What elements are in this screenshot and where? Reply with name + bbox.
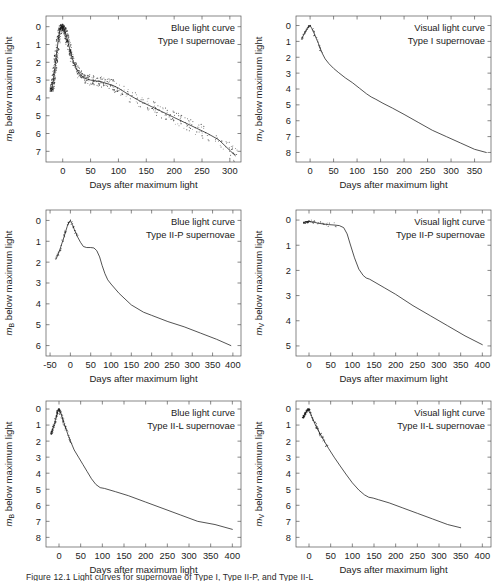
svg-text:150: 150 <box>139 166 155 176</box>
svg-text:3: 3 <box>286 291 291 301</box>
svg-text:200: 200 <box>388 551 404 561</box>
svg-text:350: 350 <box>453 360 469 370</box>
svg-text:5: 5 <box>36 320 41 330</box>
svg-text:1: 1 <box>286 420 291 430</box>
svg-text:2: 2 <box>286 437 291 447</box>
panel-visual-type-ii-l: 050100150200250300350400012345678Visual … <box>250 387 499 581</box>
svg-text:Blue light curve: Blue light curve <box>171 22 235 33</box>
svg-text:2: 2 <box>286 266 291 276</box>
svg-text:300: 300 <box>431 551 447 561</box>
svg-text:0: 0 <box>68 360 73 370</box>
svg-text:350: 350 <box>467 166 483 176</box>
svg-text:4: 4 <box>286 84 291 94</box>
svg-text:300: 300 <box>431 360 447 370</box>
svg-text:0: 0 <box>36 22 41 32</box>
plot-visual-type-i: 050100150200250300350012345678Visual lig… <box>250 2 499 196</box>
svg-text:Days after maximum light: Days after maximum light <box>89 373 198 384</box>
svg-text:7: 7 <box>286 132 291 142</box>
svg-text:Days after maximum light: Days after maximum light <box>89 179 198 190</box>
svg-text:Type I supernovae: Type I supernovae <box>158 35 235 46</box>
plot-visual-type-ii-p: 050100150200250300350400012345Visual lig… <box>250 196 499 390</box>
panel-blue-type-ii-l: 050100150200250300350400012345678Blue li… <box>0 387 249 581</box>
panel-visual-type-ii-p: 050100150200250300350400012345Visual lig… <box>250 196 499 390</box>
svg-text:3: 3 <box>36 75 41 85</box>
svg-text:3: 3 <box>36 278 41 288</box>
svg-text:5: 5 <box>286 341 291 351</box>
svg-text:8: 8 <box>286 533 291 543</box>
svg-text:250: 250 <box>420 166 436 176</box>
svg-text:Blue light curve: Blue light curve <box>171 407 235 418</box>
svg-text:350: 350 <box>203 551 219 561</box>
svg-text:Visual light curve: Visual light curve <box>414 22 485 33</box>
svg-text:300: 300 <box>443 166 459 176</box>
svg-text:1: 1 <box>286 37 291 47</box>
plot-blue-type-i: 05010015020025030001234567Blue light cur… <box>0 2 249 196</box>
svg-text:mV below maximum light: mV below maximum light <box>253 230 265 335</box>
svg-text:100: 100 <box>345 360 361 370</box>
panel-visual-type-i: 050100150200250300350012345678Visual lig… <box>250 2 499 196</box>
svg-text:1: 1 <box>36 237 41 247</box>
supernova-light-curve-figure: 05010015020025030001234567Blue light cur… <box>0 0 499 581</box>
svg-text:6: 6 <box>36 341 41 351</box>
svg-text:mB below maximum light: mB below maximum light <box>3 230 15 335</box>
svg-text:Type II-L supernovae: Type II-L supernovae <box>147 420 235 431</box>
svg-text:4: 4 <box>36 299 41 309</box>
svg-text:250: 250 <box>410 360 426 370</box>
svg-text:0: 0 <box>56 551 61 561</box>
svg-text:1: 1 <box>286 241 291 251</box>
svg-text:50: 50 <box>328 166 338 176</box>
svg-text:4: 4 <box>286 316 291 326</box>
svg-text:150: 150 <box>124 360 140 370</box>
figure-caption-text: Figure 12.1 Light curves for supernovae … <box>26 573 313 581</box>
svg-text:mB below maximum light: mB below maximum light <box>3 421 15 526</box>
figure-caption: Figure 12.1 Light curves for supernovae … <box>0 573 499 581</box>
svg-text:350: 350 <box>453 551 469 561</box>
svg-text:0: 0 <box>36 216 41 226</box>
svg-text:mB below maximum light: mB below maximum light <box>3 36 15 141</box>
svg-text:200: 200 <box>138 551 154 561</box>
svg-text:100: 100 <box>111 166 127 176</box>
svg-text:3: 3 <box>286 453 291 463</box>
svg-text:250: 250 <box>160 551 176 561</box>
plot-blue-type-ii-p: -500501001502002503003504000123456Blue l… <box>0 196 249 390</box>
svg-text:Visual light curve: Visual light curve <box>414 407 485 418</box>
svg-text:4: 4 <box>36 469 41 479</box>
svg-text:300: 300 <box>184 360 200 370</box>
svg-text:100: 100 <box>95 551 111 561</box>
svg-text:150: 150 <box>366 551 382 561</box>
svg-text:400: 400 <box>475 551 491 561</box>
svg-text:0: 0 <box>60 166 65 176</box>
svg-text:1: 1 <box>36 420 41 430</box>
svg-text:5: 5 <box>286 100 291 110</box>
svg-text:250: 250 <box>410 551 426 561</box>
svg-text:2: 2 <box>36 58 41 68</box>
svg-text:4: 4 <box>286 469 291 479</box>
svg-text:-50: -50 <box>43 360 56 370</box>
svg-text:4: 4 <box>36 93 41 103</box>
svg-text:400: 400 <box>475 360 491 370</box>
svg-text:100: 100 <box>345 551 361 561</box>
svg-text:0: 0 <box>286 215 291 225</box>
svg-text:2: 2 <box>36 258 41 268</box>
svg-text:200: 200 <box>144 360 160 370</box>
svg-text:50: 50 <box>86 360 96 370</box>
svg-text:0: 0 <box>286 404 291 414</box>
svg-text:3: 3 <box>286 69 291 79</box>
svg-text:250: 250 <box>164 360 180 370</box>
plot-blue-type-ii-l: 050100150200250300350400012345678Blue li… <box>0 387 249 581</box>
svg-text:350: 350 <box>205 360 221 370</box>
svg-text:100: 100 <box>349 166 365 176</box>
svg-text:Type II-L supernovae: Type II-L supernovae <box>397 420 485 431</box>
svg-text:150: 150 <box>373 166 389 176</box>
svg-text:5: 5 <box>286 485 291 495</box>
svg-text:50: 50 <box>325 360 335 370</box>
svg-text:7: 7 <box>36 517 41 527</box>
svg-text:Days after maximum light: Days after maximum light <box>339 179 448 190</box>
svg-text:400: 400 <box>225 551 241 561</box>
svg-text:Days after maximum light: Days after maximum light <box>339 373 448 384</box>
plot-visual-type-ii-l: 050100150200250300350400012345678Visual … <box>250 387 499 581</box>
svg-text:2: 2 <box>36 437 41 447</box>
svg-text:3: 3 <box>36 453 41 463</box>
svg-text:7: 7 <box>286 517 291 527</box>
svg-text:6: 6 <box>286 501 291 511</box>
